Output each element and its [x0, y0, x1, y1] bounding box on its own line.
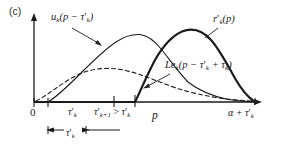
curve-label-le-k: Lek(p − τ′k + τk) — [165, 60, 232, 71]
x-tick-label-alpha: α + τ′k — [228, 108, 254, 118]
figure-panel-c: (c) — [0, 0, 283, 148]
span-arrowhead-left — [46, 128, 54, 133]
leader-line-u-k — [72, 28, 100, 44]
x-tick-label-zero: 0 — [30, 107, 36, 118]
curve-label-u-k: uk(p − τ′k) — [51, 12, 93, 23]
x-tick-label-tau-k-plus-1: τ′k+1 > τ′k — [94, 107, 130, 117]
y-axis — [31, 13, 37, 102]
x-axis-variable-label: p — [152, 110, 158, 122]
plot-canvas — [0, 0, 283, 148]
span-dimension-arrow — [46, 126, 120, 134]
x-tick-label-tau-k: τ′k — [68, 107, 77, 117]
y-axis-arrowhead — [31, 13, 37, 21]
leader-arrowhead-u-k — [95, 40, 102, 46]
curve-label-r-k: r′k(p) — [213, 14, 235, 25]
leader-line-r-k — [205, 28, 218, 38]
span-dimension-label: τ′k — [66, 128, 75, 138]
